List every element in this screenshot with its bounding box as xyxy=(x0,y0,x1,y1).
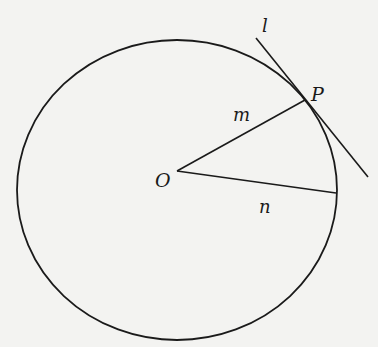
label-m: m xyxy=(233,104,250,125)
label-l: l xyxy=(262,15,268,36)
label-O: O xyxy=(155,169,171,191)
tangent-line-l xyxy=(256,38,368,177)
label-P: P xyxy=(310,83,325,105)
radius-n xyxy=(177,171,336,193)
circle xyxy=(17,40,337,340)
label-n: n xyxy=(259,196,271,217)
circle-tangent-diagram: l P m O n xyxy=(0,0,378,347)
